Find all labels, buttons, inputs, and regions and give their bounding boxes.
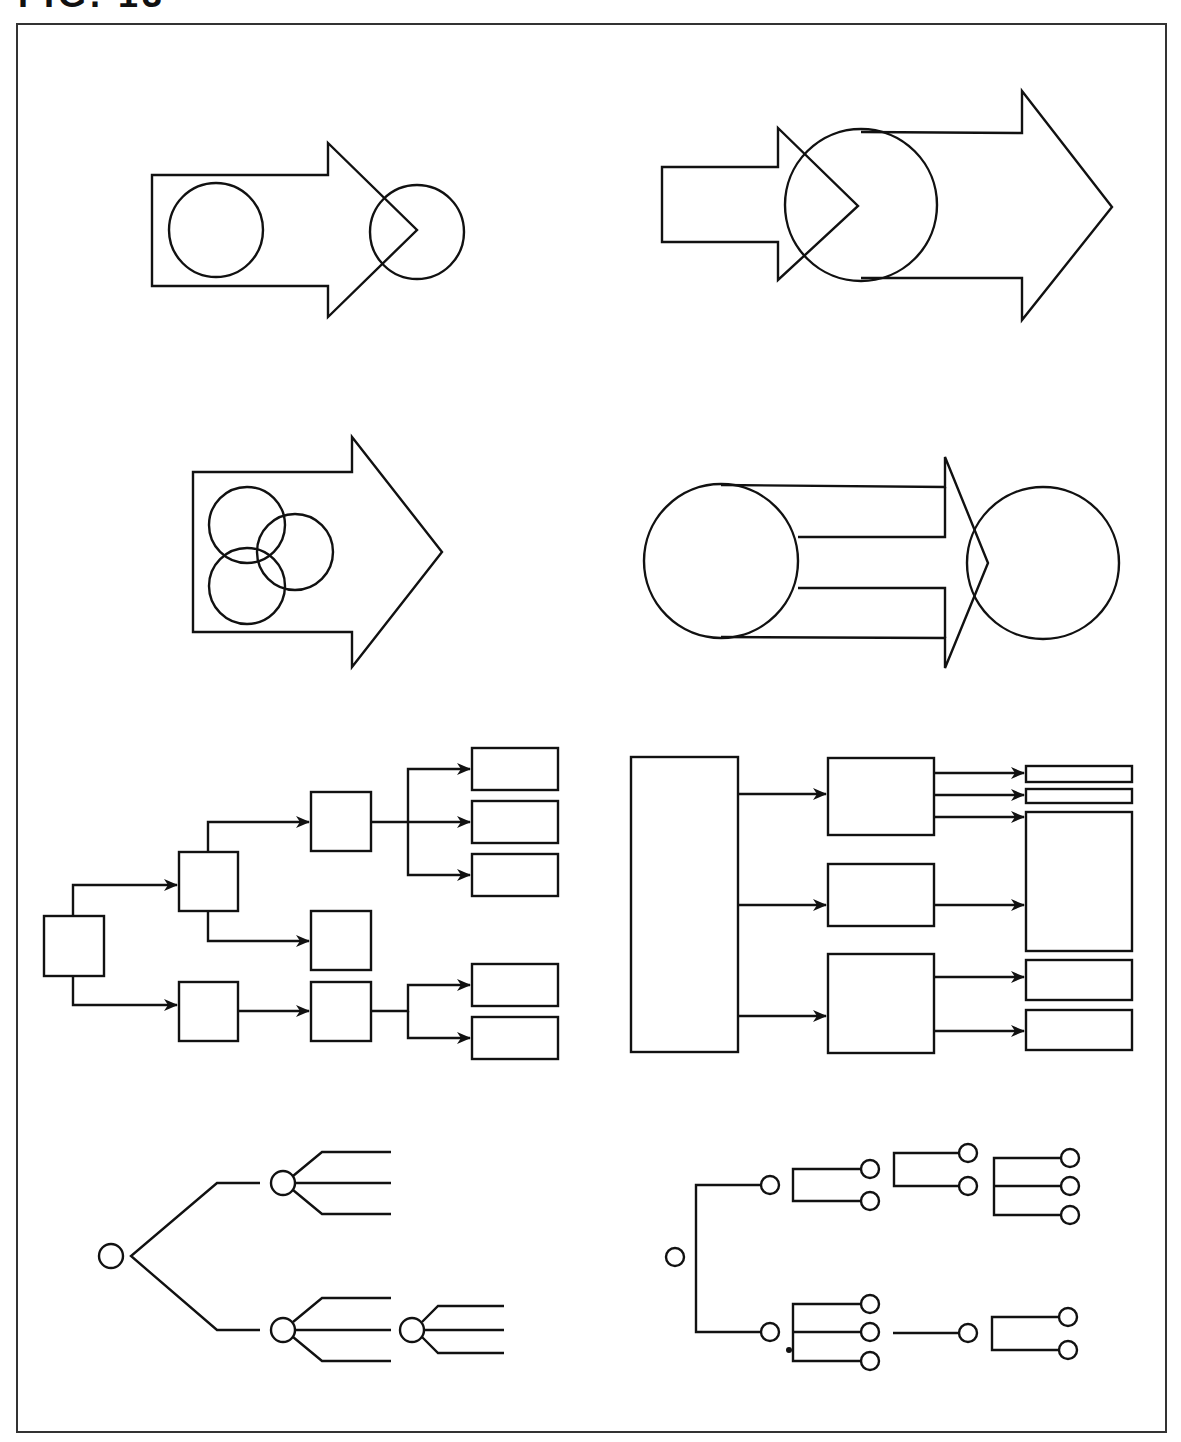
panel-circle-tree-branching <box>99 1152 504 1361</box>
box-leaf <box>472 854 558 896</box>
tree-node <box>959 1324 977 1342</box>
box-node <box>44 916 104 976</box>
small-block-arrow-shape <box>662 128 858 280</box>
split-arrow-outline <box>721 457 988 668</box>
connector-arrow <box>408 822 470 875</box>
circle-shape <box>257 514 333 590</box>
box-node <box>179 982 238 1041</box>
tree-node <box>271 1171 295 1195</box>
tree-node <box>1059 1341 1077 1359</box>
panel-box-tree <box>44 748 558 1059</box>
box-node <box>179 852 238 911</box>
branch-lines <box>131 1183 260 1330</box>
box-leaf <box>472 964 558 1006</box>
block-arrow-shape <box>152 143 417 317</box>
source-block <box>631 757 738 1052</box>
figure-canvas <box>0 0 1181 1442</box>
bracket-lines <box>696 1185 761 1332</box>
circle-shape <box>209 548 285 624</box>
panel-block-fanout <box>631 757 1132 1053</box>
box-node <box>311 982 371 1041</box>
tree-node <box>1061 1177 1079 1195</box>
output-block <box>1026 812 1132 951</box>
bracket-lines <box>894 1153 959 1186</box>
split-arrow-inner-top <box>798 487 945 537</box>
bracket-lines <box>793 1304 861 1361</box>
box-node <box>311 792 371 851</box>
connector-arrow <box>208 822 309 852</box>
connector-arrow <box>408 769 470 822</box>
box-leaf <box>472 748 558 790</box>
circle-shape <box>644 484 798 638</box>
box-node <box>311 911 371 970</box>
tree-node <box>861 1323 879 1341</box>
box-leaf <box>472 1017 558 1059</box>
junction-dot <box>786 1347 792 1353</box>
middle-block <box>828 864 934 926</box>
tree-node <box>959 1144 977 1162</box>
large-block-arrow-shape <box>861 91 1112 320</box>
tree-node <box>1059 1308 1077 1326</box>
tree-node <box>271 1318 295 1342</box>
circle-shape <box>785 129 937 281</box>
output-block <box>1026 789 1132 803</box>
bracket-lines <box>992 1317 1059 1350</box>
tree-node <box>761 1176 779 1194</box>
root-node <box>99 1244 123 1268</box>
tree-node <box>861 1192 879 1210</box>
bracket-lines <box>793 1169 861 1201</box>
connector-arrow <box>408 1011 470 1038</box>
box-leaf <box>472 801 558 843</box>
middle-block <box>828 954 934 1053</box>
bracket-lines <box>994 1158 1061 1215</box>
border-frame <box>17 24 1166 1432</box>
output-block <box>1026 1010 1132 1050</box>
connector-arrow <box>73 885 177 916</box>
circle-shape <box>370 185 464 279</box>
tree-node <box>861 1295 879 1313</box>
connector-arrow <box>208 911 309 941</box>
panel-circle-arrow-circle <box>644 457 1119 668</box>
circle-shape <box>169 183 263 277</box>
tree-node <box>959 1177 977 1195</box>
tree-node <box>861 1160 879 1178</box>
panel-circle-tree-bracket <box>666 1144 1079 1370</box>
tree-node <box>400 1318 424 1342</box>
panel-arrow-into-big-arrow <box>662 91 1112 320</box>
output-block <box>1026 960 1132 1000</box>
output-block <box>1026 766 1132 782</box>
panel-arrow-circle-overlap <box>152 143 464 317</box>
branch-lines <box>293 1298 391 1361</box>
circle-shape <box>967 487 1119 639</box>
tree-node <box>861 1352 879 1370</box>
circle-shape <box>209 487 285 563</box>
root-node <box>666 1248 684 1266</box>
middle-block <box>828 758 934 835</box>
branch-lines <box>422 1306 504 1353</box>
panel-arrow-three-circles <box>193 437 442 667</box>
connector-arrow <box>73 976 177 1005</box>
branch-lines <box>293 1152 391 1214</box>
tree-node <box>1061 1206 1079 1224</box>
connector-arrow <box>371 985 470 1011</box>
tree-node <box>761 1323 779 1341</box>
split-arrow-inner-bottom <box>798 588 945 638</box>
tree-node <box>1061 1149 1079 1167</box>
